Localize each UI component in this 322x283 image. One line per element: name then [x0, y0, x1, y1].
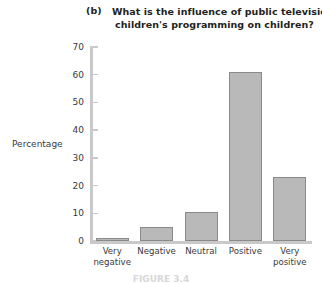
y-axis-tick-mark	[93, 129, 98, 131]
y-axis-tick-label: 10	[73, 208, 84, 218]
bar	[185, 212, 218, 241]
bar	[140, 227, 173, 241]
category-label-line: Negative	[134, 246, 178, 257]
x-axis-category-label: Positive	[223, 246, 267, 257]
y-axis-tick-label: 40	[73, 125, 84, 135]
y-axis-tick-label: 0	[78, 236, 84, 246]
chart-title-line-2: children's programming on children?	[112, 18, 317, 31]
chart-title-block: (b) What is the influence of public tele…	[0, 5, 322, 37]
y-axis-tick-mark	[93, 213, 98, 215]
y-axis-tick-mark	[93, 46, 98, 48]
y-axis-tick-mark	[93, 102, 98, 104]
y-axis-tick-label: 30	[73, 153, 84, 163]
bar	[96, 238, 129, 241]
category-label-line: positive	[268, 257, 312, 268]
x-axis-spine	[90, 241, 312, 244]
y-axis-tick-label: 50	[73, 97, 84, 107]
y-axis-tick-mark	[93, 74, 98, 76]
plot-area: 010203040506070 VerynegativeNegativeNeut…	[90, 46, 312, 243]
y-axis-tick-mark	[93, 157, 98, 159]
y-axis-tick-label: 60	[73, 70, 84, 80]
bar	[273, 177, 306, 241]
panel-letter: (b)	[86, 5, 102, 16]
chart-title-line-1: What is the influence of public televisi…	[112, 5, 317, 18]
x-axis-category-label: Neutral	[179, 246, 223, 257]
x-axis-category-label: Verynegative	[90, 246, 134, 268]
y-axis-label: Percentage	[12, 139, 63, 149]
category-label-line: Very	[90, 246, 134, 257]
bar	[229, 72, 262, 241]
figure-caption: FIGURE 3.4	[0, 274, 322, 283]
y-axis-tick-mark	[93, 185, 98, 187]
x-axis-category-label: Verypositive	[268, 246, 312, 268]
chart-title: What is the influence of public televisi…	[112, 5, 317, 31]
y-axis-tick-label: 70	[73, 42, 84, 52]
category-label-line: Very	[268, 246, 312, 257]
category-label-line: negative	[90, 257, 134, 268]
figure-panel-b: (b) What is the influence of public tele…	[0, 0, 322, 283]
y-axis-tick-label: 20	[73, 181, 84, 191]
x-axis-category-label: Negative	[134, 246, 178, 257]
category-label-line: Neutral	[179, 246, 223, 257]
category-label-line: Positive	[223, 246, 267, 257]
